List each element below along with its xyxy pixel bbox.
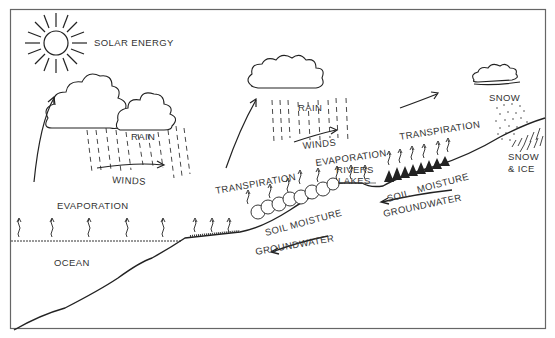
snow-dots — [495, 103, 528, 141]
label-ocean: OCEAN — [54, 257, 90, 268]
sun-icon — [25, 13, 87, 73]
label-transpiration-right: TRANSPIRATION — [399, 118, 481, 142]
label-rivers: RIVERS — [336, 164, 374, 175]
label-lakes: LAKES — [338, 175, 371, 186]
label-winds-left: WINDS — [112, 174, 146, 187]
winds-arrow — [97, 164, 163, 168]
label-snow: SNOW — [489, 92, 520, 103]
label-solar-energy: SOLAR ENERGY — [94, 37, 174, 48]
label-transpiration-left: TRANSPIRATION — [214, 171, 296, 196]
label-rain-mid: RAIN — [298, 102, 322, 113]
label-evaporation-ocean: EVAPORATION — [57, 200, 129, 211]
label-snow-ice-2: & ICE — [508, 163, 535, 174]
ice-hatch — [512, 128, 543, 152]
water-cycle-diagram: SOLAR ENERGY RAIN WINDS RAIN WINDS — [0, 0, 555, 338]
cloud-icon — [473, 64, 520, 84]
label-winds-mid: WINDS — [302, 137, 337, 151]
cloud-icon — [46, 74, 176, 130]
cloud-icon — [248, 55, 323, 88]
label-snow-ice: SNOW — [508, 151, 539, 162]
label-rain-left: RAIN — [131, 131, 155, 142]
label-soil: SOIL — [386, 187, 411, 204]
